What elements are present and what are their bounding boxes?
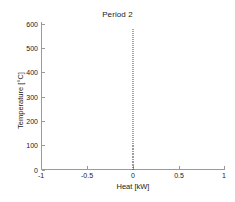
chart-figure: Period 2 0 100 200 300 400 500 [0,0,235,202]
y-tick-label: 400 [26,69,38,76]
x-tick-label: 0.5 [174,172,184,179]
x-tick-label: -0.5 [81,172,93,179]
y-tick-label: 300 [26,93,38,100]
x-tick-1 [224,166,225,170]
x-tick-label: 1 [222,172,226,179]
plot-area: 0 100 200 300 400 500 600 -1 -0. [41,22,225,170]
chart-title: Period 2 [0,10,235,19]
y-tick-label: 100 [26,142,38,149]
y-tick-label: 500 [26,44,38,51]
x-tick-label: -1 [38,172,44,179]
data-series-layer [41,22,225,170]
y-axis-label: Temperature [°C] [16,41,25,161]
x-tick-label: 0 [131,172,135,179]
x-tick-0 [133,166,134,170]
x-tick-neg1 [41,166,42,170]
x-axis-label: Heat [kW] [41,182,225,191]
x-tick-0-5 [179,166,180,170]
y-tick-label: 200 [26,117,38,124]
data-series-upper-segment [133,29,134,143]
y-tick-label: 600 [26,20,38,27]
x-tick-neg0-5 [87,166,88,170]
